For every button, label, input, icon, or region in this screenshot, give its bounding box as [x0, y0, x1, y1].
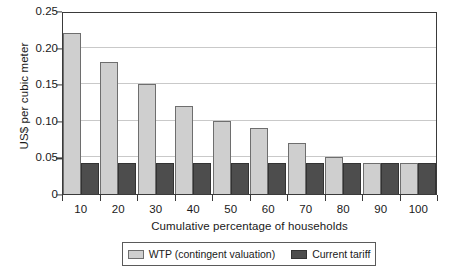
- bar-current-tariff: [418, 163, 436, 194]
- chart-figure: US$ per cubic meter 00.050.100.150.200.2…: [0, 0, 450, 274]
- bar-current-tariff: [156, 163, 174, 194]
- x-axis-tick-mark: [100, 195, 101, 201]
- y-axis-tick-label: 0.25: [24, 6, 58, 18]
- bar-group: [288, 13, 326, 194]
- bar-group: [213, 13, 251, 194]
- bar-wtp: [363, 163, 381, 194]
- bar-wtp: [250, 128, 268, 194]
- legend-swatch-wtp: [128, 250, 144, 259]
- chart-legend: WTP (contingent valuation) Current tarif…: [122, 242, 376, 266]
- x-axis-tick-label: 70: [286, 203, 326, 216]
- legend-label-current-tariff: Current tariff: [312, 248, 370, 260]
- bar-group: [101, 13, 139, 194]
- legend-label-wtp: WTP (contingent valuation): [149, 248, 275, 260]
- y-axis-tick-label: 0.10: [24, 116, 58, 128]
- x-axis-tick-label: 100: [398, 203, 438, 216]
- bar-wtp: [288, 143, 306, 194]
- bar-current-tariff: [81, 163, 99, 194]
- x-axis-tick-label: 20: [98, 203, 138, 216]
- x-axis-tick-label: 40: [173, 203, 213, 216]
- bar-current-tariff: [381, 163, 399, 194]
- bar-group: [176, 13, 214, 194]
- y-axis-tick-label: 0.05: [24, 153, 58, 165]
- x-axis-tick-label: 50: [211, 203, 251, 216]
- legend-entry-wtp: WTP (contingent valuation): [128, 248, 275, 260]
- bar-wtp: [138, 84, 156, 194]
- bar-current-tariff: [193, 163, 211, 194]
- y-axis-tick-label: 0.20: [24, 43, 58, 55]
- x-axis-tick-mark: [250, 195, 251, 201]
- bar-wtp: [400, 163, 418, 194]
- bar-wtp: [100, 62, 118, 194]
- legend-entry-current-tariff: Current tariff: [291, 248, 370, 260]
- bar-wtp: [63, 33, 81, 194]
- bar-group: [138, 13, 176, 194]
- bar-series-container: [63, 13, 436, 194]
- x-axis-tick-label: 90: [361, 203, 401, 216]
- x-axis-title: Cumulative percentage of households: [62, 219, 437, 233]
- bar-group: [326, 13, 364, 194]
- bar-current-tariff: [231, 163, 249, 194]
- x-axis-tick-mark: [400, 195, 401, 201]
- bar-group: [63, 13, 101, 194]
- bar-current-tariff: [118, 163, 136, 194]
- x-axis-tick-mark: [325, 195, 326, 201]
- bar-current-tariff: [306, 163, 324, 194]
- x-axis-tick-mark: [437, 195, 438, 201]
- x-axis-tick-mark: [287, 195, 288, 201]
- x-axis-tick-label: 80: [323, 203, 363, 216]
- x-axis-tick-mark: [137, 195, 138, 201]
- x-axis-tick-label: 30: [136, 203, 176, 216]
- x-axis-tick-label: 10: [61, 203, 101, 216]
- y-axis-tick-label: 0.15: [24, 79, 58, 91]
- bar-group: [401, 13, 439, 194]
- y-axis-tick-label: 0: [24, 189, 58, 201]
- bar-wtp: [175, 106, 193, 194]
- bar-wtp: [213, 121, 231, 194]
- plot-area: [62, 12, 437, 195]
- bar-current-tariff: [268, 163, 286, 194]
- x-axis-tick-mark: [175, 195, 176, 201]
- bar-group: [363, 13, 401, 194]
- x-axis-tick-mark: [62, 195, 63, 201]
- y-axis-title: US$ per cubic meter: [16, 0, 32, 196]
- bar-group: [251, 13, 289, 194]
- x-axis-tick-mark: [362, 195, 363, 201]
- bar-current-tariff: [343, 163, 361, 194]
- bar-wtp: [325, 157, 343, 194]
- legend-swatch-current-tariff: [291, 250, 307, 259]
- x-axis-tick-mark: [212, 195, 213, 201]
- x-axis-tick-label: 60: [248, 203, 288, 216]
